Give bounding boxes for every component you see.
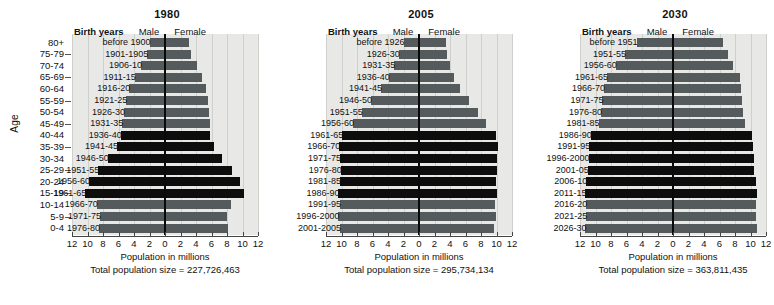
- panel-title: 2030: [580, 8, 770, 20]
- age-group-label: 80+: [14, 38, 64, 48]
- male-bar: [150, 38, 166, 47]
- male-bar: [625, 50, 673, 59]
- female-bar: [419, 212, 496, 221]
- male-bar: [98, 166, 165, 175]
- x-tick-label: 8: [473, 238, 489, 249]
- total-population-label: Total population size = 227,726,463: [72, 264, 258, 275]
- male-bar: [604, 84, 673, 93]
- female-bar: [673, 96, 742, 105]
- x-tick: [326, 232, 327, 236]
- female-bar: [165, 84, 206, 93]
- male-bar: [586, 177, 673, 186]
- birth-years-label: before 1926: [356, 38, 404, 47]
- birth-years-label: 1956-60: [584, 61, 617, 70]
- female-bar: [673, 177, 756, 186]
- female-bar: [165, 108, 209, 117]
- male-bar: [340, 177, 419, 186]
- x-tick: [134, 232, 135, 236]
- x-tick: [642, 232, 643, 236]
- female-bar: [673, 212, 756, 221]
- birth-years-label: 1951-55: [593, 50, 626, 59]
- x-tick-label: 2: [681, 238, 697, 249]
- total-population-label: Total population size = 295,734,134: [326, 264, 512, 275]
- x-tick: [88, 232, 89, 236]
- x-tick-label: 6: [712, 238, 728, 249]
- x-tick: [596, 232, 597, 236]
- age-tick: [65, 54, 71, 55]
- x-tick-label: 10: [489, 238, 505, 249]
- female-bar: [419, 200, 495, 209]
- female-bar: [673, 50, 728, 59]
- x-tick-label: 10: [334, 238, 350, 249]
- birth-years-label: 1946-50: [339, 96, 372, 105]
- male-bar: [585, 224, 673, 233]
- male-bar: [121, 131, 165, 140]
- header-male: Male: [139, 26, 160, 37]
- x-tick-label: 8: [349, 238, 365, 249]
- x-axis-line: [326, 236, 512, 237]
- female-bar: [673, 38, 723, 47]
- birth-years-label: 1981-85: [308, 177, 341, 186]
- birth-years-label: 1916-20: [97, 84, 130, 93]
- x-tick-label: 4: [188, 238, 204, 249]
- male-bar: [341, 166, 419, 175]
- x-tick-label: 4: [696, 238, 712, 249]
- male-bar: [637, 38, 673, 47]
- female-bar: [419, 189, 497, 198]
- age-tick: [65, 77, 71, 78]
- female-bar: [165, 50, 191, 59]
- x-axis-line: [580, 236, 766, 237]
- male-bar: [586, 200, 673, 209]
- x-tick: [196, 232, 197, 236]
- female-bar: [419, 108, 478, 117]
- female-bar: [165, 212, 227, 221]
- birth-years-label: 1996-2000: [296, 212, 339, 221]
- age-group-label: 5-9: [14, 212, 64, 222]
- header-male: Male: [647, 26, 668, 37]
- birth-years-label: 1956-60: [57, 177, 90, 186]
- male-bar: [129, 84, 165, 93]
- female-bar: [419, 84, 460, 93]
- female-bar: [419, 96, 469, 105]
- male-bar: [126, 96, 165, 105]
- x-tick: [497, 232, 498, 236]
- birth-years-label: 1941-45: [349, 84, 382, 93]
- male-bar: [589, 154, 673, 163]
- birth-years-label: 2026-30: [553, 224, 586, 233]
- male-bar: [362, 108, 419, 117]
- male-bar: [338, 212, 419, 221]
- panel-title: 2005: [326, 8, 516, 20]
- age-group-label: 45-49: [14, 119, 64, 129]
- female-bar: [165, 189, 244, 198]
- female-bar: [673, 200, 756, 209]
- x-tick-label: 8: [603, 238, 619, 249]
- female-bar: [165, 154, 222, 163]
- birth-years-label: before 1900: [102, 38, 150, 47]
- female-bar: [419, 73, 454, 82]
- male-bar: [99, 224, 165, 233]
- male-bar: [100, 212, 165, 221]
- birth-years-label: 1991-95: [308, 200, 341, 209]
- birth-years-label: 1971-75: [68, 212, 101, 221]
- x-tick-label: 6: [111, 238, 127, 249]
- birth-years-label: 1986-90: [306, 189, 339, 198]
- male-bar: [340, 200, 419, 209]
- male-bar: [607, 73, 673, 82]
- birth-years-label: 1971-75: [570, 96, 603, 105]
- birth-years-label: 1971-75: [308, 154, 341, 163]
- header-birth-years: Birth years: [328, 26, 378, 37]
- age-axis: Age 80+75-7970-7465-6960-6455-5950-5445-…: [0, 0, 72, 305]
- header-female: Female: [682, 26, 714, 37]
- female-bar: [673, 108, 743, 117]
- x-tick-label: 4: [634, 238, 650, 249]
- x-tick: [404, 232, 405, 236]
- x-tick-label: 12: [250, 238, 266, 249]
- x-tick-label: 0: [665, 238, 681, 249]
- female-bar: [673, 154, 754, 163]
- x-tick-label: 4: [380, 238, 396, 249]
- birth-years-label: 1966-70: [572, 84, 605, 93]
- x-tick-label: 4: [442, 238, 458, 249]
- age-tick: [65, 147, 71, 148]
- x-tick: [419, 232, 420, 236]
- x-tick: [673, 232, 674, 236]
